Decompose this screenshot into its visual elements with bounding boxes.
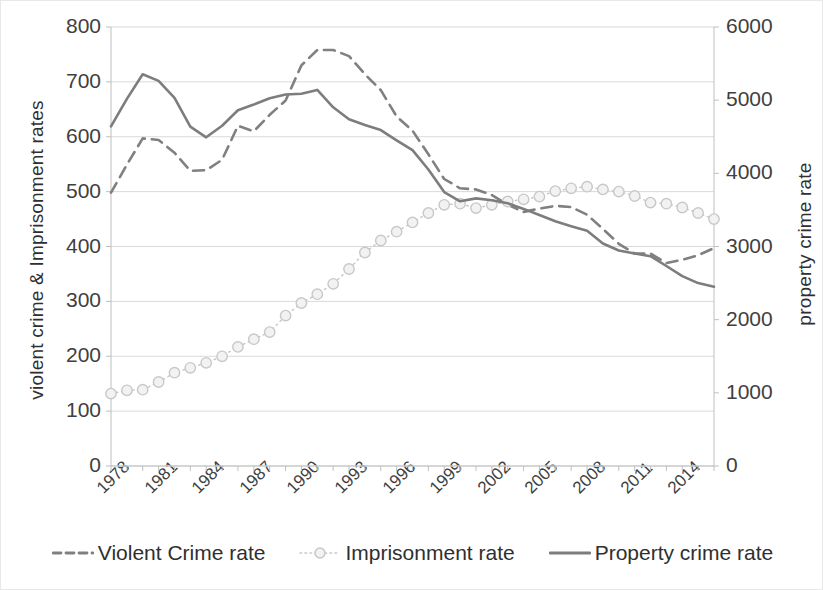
chart-figure: violent crime & Imprisonment rates prope… (0, 0, 823, 590)
data-series-group (106, 50, 719, 399)
series-marker (391, 227, 401, 237)
chart-legend: Violent Crime rateImprisonment ratePrope… (1, 541, 823, 565)
series-marker (677, 202, 687, 212)
series-marker (376, 235, 386, 245)
series-marker (106, 388, 116, 398)
legend-label: Property crime rate (595, 541, 774, 565)
series-marker (471, 203, 481, 213)
series-marker (566, 183, 576, 193)
series-marker (296, 298, 306, 308)
series-marker (423, 208, 433, 218)
series-marker (153, 377, 163, 387)
series-marker (550, 186, 560, 196)
series-marker (598, 184, 608, 194)
legend-swatch-icon (549, 545, 591, 561)
series-marker (138, 385, 148, 395)
series-marker (185, 363, 195, 373)
series-marker (630, 191, 640, 201)
series-marker (328, 279, 338, 289)
series-marker (217, 351, 227, 361)
series-marker (439, 200, 449, 210)
series-marker (344, 264, 354, 274)
series-marker (518, 194, 528, 204)
series-marker (582, 182, 592, 192)
series-marker (614, 186, 624, 196)
series-marker (201, 358, 211, 368)
series-marker (249, 334, 259, 344)
series-marker (534, 191, 544, 201)
legend-swatch-icon (52, 545, 94, 561)
series-line (111, 74, 714, 286)
plot-area (1, 1, 823, 590)
legend-swatch-icon (299, 545, 341, 561)
series-marker (407, 217, 417, 227)
legend-label: Violent Crime rate (98, 541, 266, 565)
series-marker (233, 342, 243, 352)
legend-label: Imprisonment rate (345, 541, 514, 565)
series-marker (122, 385, 132, 395)
legend-item[interactable]: Property crime rate (549, 541, 774, 565)
legend-item[interactable]: Imprisonment rate (299, 541, 514, 565)
series-marker (709, 214, 719, 224)
series-marker (312, 289, 322, 299)
series-marker (693, 208, 703, 218)
series-marker (661, 199, 671, 209)
series-marker (280, 310, 290, 320)
series-marker (265, 327, 275, 337)
series-marker (645, 197, 655, 207)
series-marker (360, 247, 370, 257)
series-marker (169, 368, 179, 378)
legend-item[interactable]: Violent Crime rate (52, 541, 266, 565)
